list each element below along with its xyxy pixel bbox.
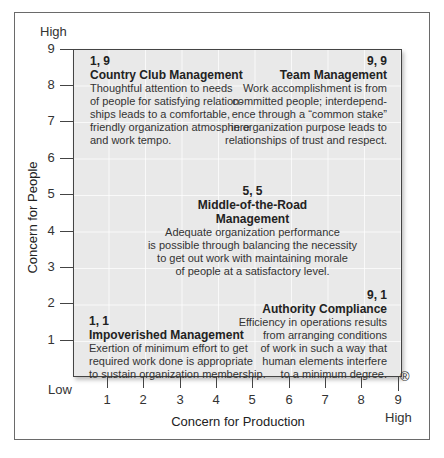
y-tick-label: 9 <box>43 41 59 56</box>
region-title: Middle-of-the-Road <box>140 198 365 212</box>
y-axis-high-label: High <box>40 24 67 39</box>
region-desc-line: in organization purpose leads to <box>215 121 387 134</box>
x-tick-label: 1 <box>99 392 115 407</box>
region-team: 9, 9 Team Management Work accomplishment… <box>215 55 387 147</box>
y-tick-mark <box>60 231 73 232</box>
region-desc-line: to a minimum degree. <box>235 368 387 381</box>
y-tick-mark <box>60 267 73 268</box>
region-desc-line: committed people; interdepend- <box>215 95 387 108</box>
region-authority-compliance: 9, 1 Authority Compliance Efficiency in … <box>235 289 387 381</box>
x-axis-title: Concern for Production <box>168 414 308 429</box>
region-coord: 5, 5 <box>140 185 365 198</box>
region-desc-line: of work in such a way that <box>235 342 387 355</box>
y-tick-label: 8 <box>43 77 59 92</box>
y-tick-mark <box>60 303 73 304</box>
y-tick-mark <box>60 85 73 86</box>
x-axis-high-label: High <box>385 410 412 425</box>
x-tick-label: 3 <box>172 392 188 407</box>
x-axis-low-label: Low <box>48 382 72 397</box>
region-coord: 9, 9 <box>215 55 387 68</box>
region-title: Authority Compliance <box>235 302 387 316</box>
x-tick-label: 5 <box>244 392 260 407</box>
y-tick-mark <box>60 49 73 50</box>
y-tick-mark <box>60 340 73 341</box>
region-desc-line: human elements interfere <box>235 355 387 368</box>
region-desc-line: relationships of trust and respect. <box>215 134 387 147</box>
x-tick-label: 4 <box>208 392 224 407</box>
region-desc-line: is possible through balancing the necess… <box>140 239 365 252</box>
y-tick-mark <box>60 158 73 159</box>
y-tick-label: 6 <box>43 150 59 165</box>
y-tick-label: 2 <box>43 295 59 310</box>
region-middle-of-the-road: 5, 5 Middle-of-the-Road Management Adequ… <box>140 185 365 278</box>
region-desc-line: ence through a “common stake” <box>215 108 387 121</box>
registered-trademark-mark: ® <box>400 369 410 384</box>
region-title: Management <box>140 212 365 226</box>
x-tick-mark <box>398 377 399 391</box>
x-tick-label: 7 <box>317 392 333 407</box>
y-tick-label: 1 <box>43 332 59 347</box>
x-tick-label: 8 <box>353 392 369 407</box>
x-tick-label: 9 <box>390 392 406 407</box>
region-coord: 9, 1 <box>235 289 387 302</box>
y-tick-label: 3 <box>43 259 59 274</box>
y-tick-mark <box>60 121 73 122</box>
y-tick-mark <box>60 194 73 195</box>
region-desc-line: Efficiency in operations results <box>235 316 387 329</box>
region-desc-line: Adequate organization performance <box>140 226 365 239</box>
y-tick-label: 5 <box>43 186 59 201</box>
region-title: Team Management <box>215 68 387 82</box>
x-tick-label: 2 <box>135 392 151 407</box>
y-tick-label: 7 <box>43 113 59 128</box>
y-tick-label: 4 <box>43 223 59 238</box>
region-desc-line: Work accomplishment is from <box>215 82 387 95</box>
y-axis-title: Concern for People <box>25 158 40 278</box>
region-desc-line: from arranging conditions <box>235 329 387 342</box>
x-tick-label: 6 <box>281 392 297 407</box>
region-desc-line: to get out work with maintaining morale <box>140 252 365 265</box>
region-desc-line: of people at a satisfactory level. <box>140 265 365 278</box>
